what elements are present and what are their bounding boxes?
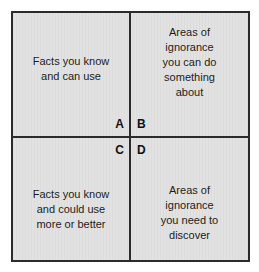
quadrant-d-text: Areas of ignorance you need to discover <box>155 183 225 243</box>
quadrant-a[interactable]: Facts you know and can use A <box>13 13 131 138</box>
quadrant-d[interactable]: Areas of ignorance you need to discover … <box>131 138 248 260</box>
knowledge-matrix-figure: Facts you know and can use A Areas of ig… <box>11 11 250 262</box>
quadrant-b-label: B <box>137 118 146 130</box>
quadrant-c-text: Facts you know and could use more or bet… <box>27 187 115 232</box>
quadrant-b-text: Areas of ignorance you can do something … <box>157 25 223 100</box>
quadrant-a-label: A <box>115 118 124 130</box>
quadrant-a-text: Facts you know and can use <box>27 54 115 84</box>
matrix-grid: Facts you know and can use A Areas of ig… <box>13 13 248 260</box>
quadrant-b[interactable]: Areas of ignorance you can do something … <box>131 13 248 138</box>
quadrant-c[interactable]: Facts you know and could use more or bet… <box>13 138 131 260</box>
quadrant-c-label: C <box>115 144 124 156</box>
quadrant-d-label: D <box>137 144 146 156</box>
